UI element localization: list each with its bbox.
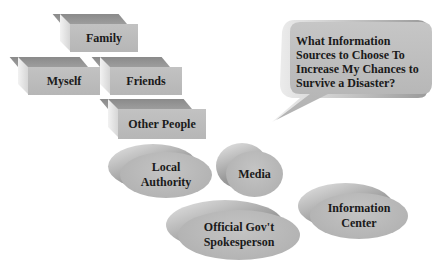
disc-media-label: Media bbox=[238, 167, 271, 182]
disc-information-center: Information Center bbox=[298, 183, 410, 241]
disc-local-authority-line1: Local bbox=[141, 160, 192, 175]
diagram-canvas: Family Myself Friends Other People Local… bbox=[0, 0, 444, 264]
block-family: Family bbox=[60, 14, 140, 54]
disc-official-spokesperson-line1: Official Gov't bbox=[204, 220, 275, 235]
question-line-4: Survive a Disaster? bbox=[296, 76, 426, 90]
disc-local-authority: Local Authority bbox=[108, 144, 213, 199]
question-line-2: Sources to Choose To bbox=[296, 48, 426, 62]
block-friends: Friends bbox=[100, 57, 185, 97]
question-speech-bubble: What Information Sources to Choose To In… bbox=[270, 14, 435, 126]
disc-local-authority-line2: Authority bbox=[141, 175, 192, 190]
question-line-1: What Information bbox=[296, 34, 426, 48]
disc-information-center-line1: Information bbox=[328, 201, 391, 216]
block-friends-label: Friends bbox=[110, 67, 182, 95]
question-text: What Information Sources to Choose To In… bbox=[296, 34, 426, 90]
disc-official-spokesperson-line2: Spokesperson bbox=[204, 235, 275, 250]
block-other-people: Other People bbox=[108, 99, 210, 141]
disc-information-center-line2: Center bbox=[328, 216, 391, 231]
block-family-label: Family bbox=[70, 24, 138, 52]
block-myself-label: Myself bbox=[28, 67, 100, 95]
block-myself: Myself bbox=[18, 57, 103, 97]
disc-media: Media bbox=[216, 143, 284, 198]
disc-official-spokesperson: Official Gov't Spokesperson bbox=[166, 200, 301, 262]
block-other-people-label: Other People bbox=[118, 109, 206, 139]
question-line-3: Increase My Chances to bbox=[296, 62, 426, 76]
